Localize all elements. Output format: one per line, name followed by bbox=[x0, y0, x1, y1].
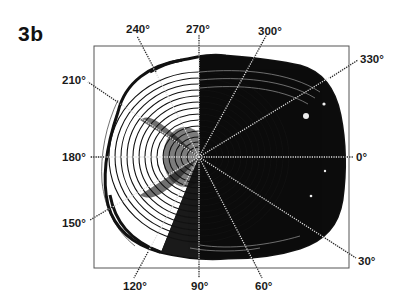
label-60-deg: 60° bbox=[255, 281, 272, 293]
otolith-figure: 3b bbox=[0, 0, 402, 304]
label-270-deg: 270° bbox=[186, 24, 210, 36]
specimen-diagram bbox=[0, 0, 402, 304]
label-210-deg: 210° bbox=[62, 75, 86, 87]
label-180-deg: 180° bbox=[62, 152, 86, 164]
label-330-deg: 330° bbox=[360, 54, 384, 66]
label-150-deg: 150° bbox=[62, 218, 86, 230]
label-30-deg: 30° bbox=[358, 256, 375, 268]
label-90-deg: 90° bbox=[191, 281, 208, 293]
label-120-deg: 120° bbox=[123, 281, 147, 293]
label-240-deg: 240° bbox=[126, 24, 150, 36]
label-300-deg: 300° bbox=[258, 26, 282, 38]
label-0-deg: 0° bbox=[356, 152, 367, 164]
